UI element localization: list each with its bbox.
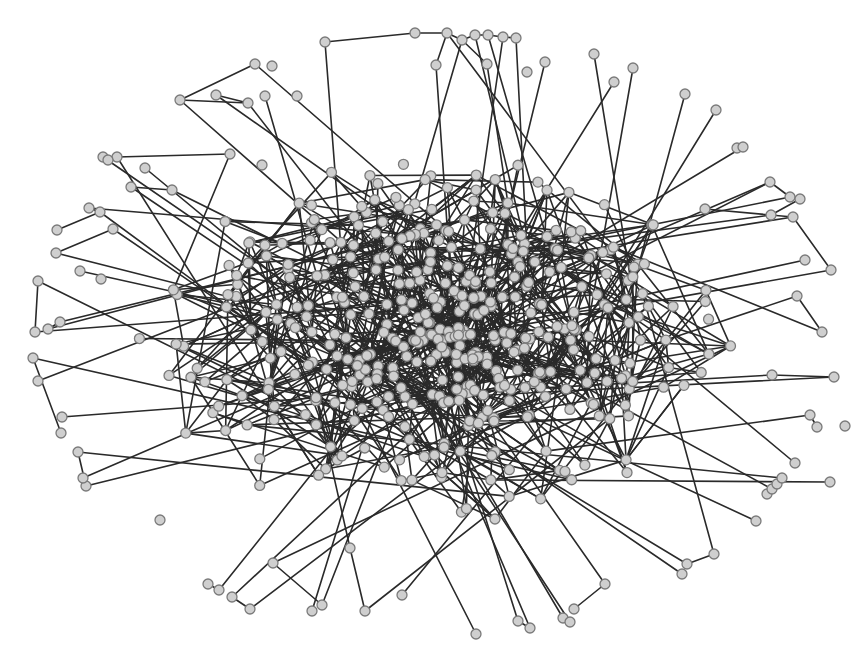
graph-node [311,393,321,403]
graph-node [306,200,316,210]
graph-node [397,234,407,244]
graph-node [453,330,463,340]
graph-node [427,204,437,214]
graph-node [565,617,575,627]
graph-node [569,345,579,355]
graph-node [348,268,358,278]
graph-edge [35,281,38,332]
graph-node [545,367,555,377]
graph-node [271,300,281,310]
graph-node [825,477,835,487]
graph-edge [56,229,113,253]
graph-node [812,422,822,432]
graph-node [795,194,805,204]
graph-node [446,242,456,252]
graph-node [591,354,601,364]
graph-node [785,192,795,202]
graph-node [380,252,390,262]
graph-node [659,382,669,392]
graph-node [384,236,394,246]
graph-node [788,212,798,222]
graph-node [489,331,499,341]
graph-node [466,329,476,339]
graph-node [526,308,536,318]
graph-node [357,403,367,413]
graph-node [309,215,319,225]
graph-node [457,291,467,301]
graph-node [488,208,498,218]
graph-node [126,182,136,192]
graph-node [364,309,374,319]
graph-node [269,401,279,411]
graph-node [515,262,525,272]
graph-node [622,468,632,478]
graph-node [396,383,406,393]
graph-node [325,340,335,350]
graph-node [103,155,113,165]
graph-node [140,163,150,173]
graph-node [300,410,310,420]
graph-node [829,372,839,382]
graph-node [542,185,552,195]
graph-node [738,142,748,152]
graph-node [777,473,787,483]
graph-node [500,208,510,218]
graph-node [486,224,496,234]
graph-node [696,368,706,378]
graph-node [246,325,256,335]
graph-node [405,278,415,288]
graph-node [221,302,231,312]
graph-node [556,262,566,272]
graph-node [337,292,347,302]
graph-node [628,272,638,282]
graph-node [800,255,810,265]
graph-node [442,261,452,271]
graph-node [348,240,358,250]
graph-node [78,473,88,483]
graph-node [600,579,610,589]
graph-node [567,475,577,485]
graph-node [396,295,406,305]
graph-node [326,442,336,452]
graph-node [442,183,452,193]
graph-node [412,267,422,277]
graph-node [628,63,638,73]
graph-node [345,543,355,553]
graph-node [200,377,210,387]
graph-node [588,399,598,409]
graph-node [227,592,237,602]
graph-node [582,378,592,388]
graph-node [453,372,463,382]
graph-node [371,228,381,238]
graph-node [629,262,639,272]
graph-node [338,380,348,390]
graph-node [590,368,600,378]
graph-node [391,192,401,202]
graph-node [576,226,586,236]
graph-node [751,516,761,526]
graph-node [455,446,465,456]
graph-node [399,342,409,352]
graph-node [643,301,653,311]
graph-node [255,480,265,490]
graph-node [661,335,671,345]
graph-edge [33,358,61,433]
graph-node [261,307,271,317]
graph-node [471,276,481,286]
graph-node [553,245,563,255]
graph-node [805,410,815,420]
graph-node [420,309,430,319]
graph-node [701,285,711,295]
graph-node [353,220,363,230]
graph-node [303,301,313,311]
graph-node [509,347,519,357]
graph-node [432,303,442,313]
graph-node [700,296,710,306]
graph-node [243,98,253,108]
graph-node [635,335,645,345]
graph-node [504,465,514,475]
graph-node [73,447,83,457]
graph-node [242,420,252,430]
graph-node [520,383,530,393]
graph-node [569,604,579,614]
